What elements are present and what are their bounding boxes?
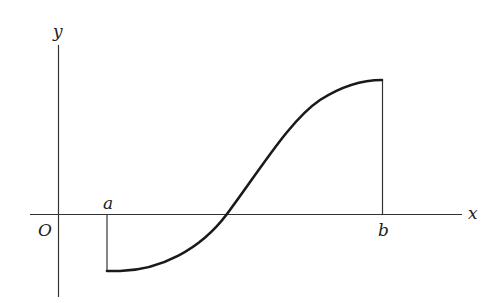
y-axis-label: y <box>52 21 63 41</box>
point-a-label: a <box>103 193 113 213</box>
origin-label: O <box>38 220 52 240</box>
point-b-label: b <box>378 220 389 240</box>
function-curve <box>107 80 382 271</box>
graph-figure: y x O a b <box>0 0 497 303</box>
x-axis-label: x <box>468 203 478 223</box>
